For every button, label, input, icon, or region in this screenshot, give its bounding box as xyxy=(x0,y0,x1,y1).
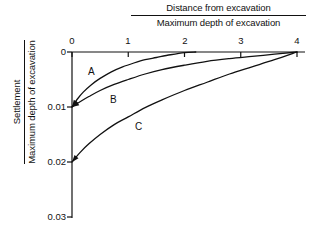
settlement-chart: Distance from excavation Maximum depth o… xyxy=(0,0,313,240)
axis-lines xyxy=(72,52,305,218)
curve-c xyxy=(72,52,297,162)
y-axis-ticks xyxy=(67,52,72,217)
curve-a xyxy=(72,52,196,107)
curve-group xyxy=(72,52,297,162)
plot-area xyxy=(0,0,313,240)
curve-arrowheads xyxy=(72,100,79,162)
curve-b xyxy=(72,52,297,107)
